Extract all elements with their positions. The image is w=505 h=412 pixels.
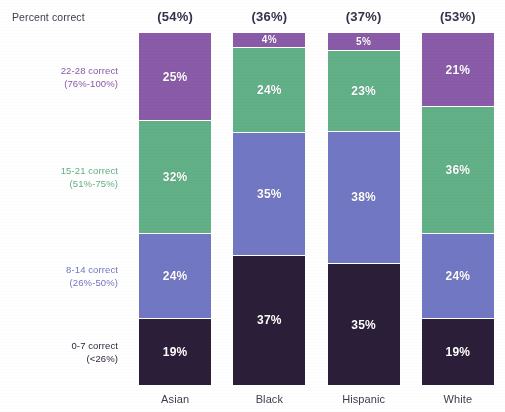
x-tick-asian: Asian xyxy=(128,393,222,405)
bar-column-black: 4%24%35%37% xyxy=(222,33,316,385)
category-total-black: (36%) xyxy=(222,9,316,24)
bar-segment-black-8-14-correct-26-50: 35% xyxy=(233,133,305,256)
stacked-bar-hispanic: 5%23%38%35% xyxy=(328,33,400,385)
bar-segment-value: 24% xyxy=(445,269,470,283)
bar-column-hispanic: 5%23%38%35% xyxy=(317,33,411,385)
bar-segment-value: 24% xyxy=(257,83,282,97)
category-total-row: (54%) (36%) (37%) (53%) xyxy=(128,0,505,33)
bar-segment-value: 23% xyxy=(351,84,376,98)
percent-correct-header-label: Percent correct xyxy=(12,11,85,23)
bar-segment-hispanic-15-21-correct-51-75: 23% xyxy=(328,51,400,131)
x-axis: Asian Black Hispanic White xyxy=(128,385,505,412)
x-tick-black: Black xyxy=(222,393,316,405)
bar-segment-hispanic-8-14-correct-26-50: 38% xyxy=(328,132,400,264)
bar-segment-hispanic-22-28-correct-76-100: 5% xyxy=(328,33,400,51)
stacked-bar-white: 21%36%24%19% xyxy=(422,33,494,385)
stacked-bar-asian: 25%32%24%19% xyxy=(139,33,211,385)
bar-column-asian: 25%32%24%19% xyxy=(128,33,222,385)
bar-segment-asian-22-28-correct-76-100: 25% xyxy=(139,33,211,121)
bar-segment-black-0-7-correct-26: 37% xyxy=(233,256,305,385)
legend-label-26-50-line1: 8-14 correct xyxy=(66,264,118,275)
bar-segment-value: 5% xyxy=(356,36,371,47)
bar-segment-asian-15-21-correct-51-75: 32% xyxy=(139,121,211,234)
bar-segment-white-15-21-correct-51-75: 36% xyxy=(422,107,494,234)
header-label-cell: Percent correct xyxy=(0,0,128,33)
legend-label-51-75-line1: 15-21 correct xyxy=(61,165,118,176)
bar-segment-value: 19% xyxy=(163,345,188,359)
category-total-hispanic: (37%) xyxy=(317,9,411,24)
x-tick-white: White xyxy=(411,393,505,405)
legend-label-26-50-line2: (26%-50%) xyxy=(66,276,118,289)
bar-segment-value: 36% xyxy=(445,163,470,177)
bar-segment-value: 4% xyxy=(262,34,277,45)
bar-segment-hispanic-0-7-correct-26: 35% xyxy=(328,264,400,385)
bar-segment-black-22-28-correct-76-100: 4% xyxy=(233,33,305,48)
bar-segment-value: 38% xyxy=(351,190,376,204)
bar-segment-value: 24% xyxy=(163,269,188,283)
bar-segment-value: 19% xyxy=(445,345,470,359)
bar-segment-asian-0-7-correct-26: 19% xyxy=(139,319,211,385)
legend-row-labels: 22-28 correct (76%-100%) 15-21 correct (… xyxy=(0,33,128,385)
bar-segment-value: 32% xyxy=(163,170,188,184)
bar-segment-asian-8-14-correct-26-50: 24% xyxy=(139,234,211,319)
bar-segment-white-0-7-correct-26: 19% xyxy=(422,319,494,385)
legend-label-76-100-line2: (76%-100%) xyxy=(61,77,118,90)
axis-spacer xyxy=(0,385,128,412)
stacked-bar-chart: Percent correct (54%) (36%) (37%) (53%) … xyxy=(0,0,505,412)
legend-label-under-26-line1: 0-7 correct xyxy=(71,340,118,351)
bar-segment-value: 21% xyxy=(445,63,470,77)
bar-column-white: 21%36%24%19% xyxy=(411,33,505,385)
legend-label-76-100: 22-28 correct (76%-100%) xyxy=(61,64,118,90)
category-total-white: (53%) xyxy=(411,9,505,24)
bar-segment-black-15-21-correct-51-75: 24% xyxy=(233,48,305,133)
bar-segment-white-22-28-correct-76-100: 21% xyxy=(422,33,494,107)
bar-segment-value: 25% xyxy=(163,70,188,84)
category-total-asian: (54%) xyxy=(128,9,222,24)
legend-label-51-75: 15-21 correct (51%-75%) xyxy=(61,164,118,190)
legend-label-under-26: 0-7 correct (<26%) xyxy=(71,339,118,365)
bar-segment-white-8-14-correct-26-50: 24% xyxy=(422,234,494,319)
plot-area: 25%32%24%19%4%24%35%37%5%23%38%35%21%36%… xyxy=(128,33,505,385)
bar-segment-value: 37% xyxy=(257,313,282,327)
stacked-bar-black: 4%24%35%37% xyxy=(233,33,305,385)
bar-segment-value: 35% xyxy=(257,187,282,201)
legend-label-76-100-line1: 22-28 correct xyxy=(61,65,118,76)
legend-label-51-75-line2: (51%-75%) xyxy=(61,177,118,190)
legend-label-26-50: 8-14 correct (26%-50%) xyxy=(66,263,118,289)
legend-label-under-26-line2: (<26%) xyxy=(71,352,118,365)
bar-segment-value: 35% xyxy=(351,318,376,332)
x-tick-hispanic: Hispanic xyxy=(317,393,411,405)
